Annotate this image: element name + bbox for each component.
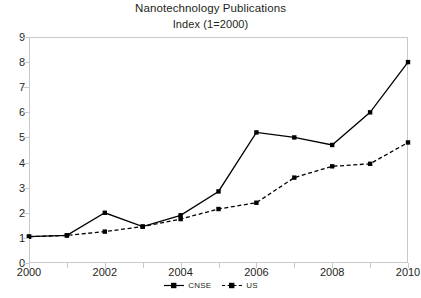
y-axis-tick <box>23 87 29 88</box>
x-axis-tick <box>181 263 182 268</box>
x-axis-tick <box>105 263 106 268</box>
y-axis-tick <box>23 163 29 164</box>
x-axis-tick <box>332 263 333 268</box>
legend-label-us: US <box>246 281 258 290</box>
series-layer <box>0 0 421 298</box>
y-axis-tick <box>23 37 29 38</box>
data-point-marker <box>141 224 145 228</box>
data-point-marker <box>254 130 258 134</box>
data-point-marker <box>330 143 334 147</box>
data-point-marker <box>178 217 182 221</box>
legend-item-cnse: CNSE <box>163 281 211 290</box>
y-axis-tick <box>23 62 29 63</box>
x-axis-tick <box>143 263 144 268</box>
x-axis-tick <box>370 263 371 268</box>
data-point-marker <box>216 189 220 193</box>
data-point-marker <box>406 140 410 144</box>
legend-line-solid-icon <box>163 281 185 290</box>
nanotechnology-publications-chart: Nanotechnology Publications Index (1=200… <box>0 0 421 298</box>
data-point-marker <box>254 201 258 205</box>
data-point-marker <box>178 213 182 217</box>
data-point-marker <box>330 164 334 168</box>
legend-label-cnse: CNSE <box>188 281 211 290</box>
data-point-marker <box>292 135 296 139</box>
x-axis-tick <box>408 263 409 268</box>
data-point-marker <box>406 60 410 64</box>
data-point-marker <box>103 211 107 215</box>
data-point-marker <box>292 175 296 179</box>
x-axis-tick <box>67 263 68 268</box>
x-axis-tick <box>29 263 30 268</box>
data-point-marker <box>368 110 372 114</box>
x-axis-tick <box>294 263 295 268</box>
y-axis-tick <box>23 188 29 189</box>
data-point-marker <box>368 162 372 166</box>
y-axis-tick <box>23 112 29 113</box>
y-axis-tick <box>23 238 29 239</box>
data-point-marker <box>103 229 107 233</box>
legend-item-us: US <box>221 281 258 290</box>
y-axis-tick <box>23 137 29 138</box>
data-point-marker <box>216 207 220 211</box>
y-axis-tick <box>23 213 29 214</box>
legend-line-dashed-icon <box>221 281 243 290</box>
x-axis-tick <box>219 263 220 268</box>
x-axis-tick <box>256 263 257 268</box>
data-point-marker <box>65 233 69 237</box>
chart-legend: CNSE US <box>0 281 421 290</box>
